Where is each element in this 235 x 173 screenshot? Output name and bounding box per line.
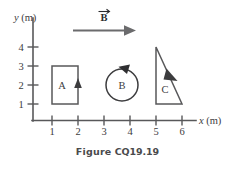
loop-c-group: C (156, 47, 182, 104)
y-tick-label-group: 4 3 2 1 (18, 42, 24, 110)
x-tick-label-4: 4 (127, 126, 133, 137)
loop-a-label: A (58, 80, 66, 91)
x-axis-label-var: x (198, 115, 204, 126)
field-label-B: B (100, 12, 107, 23)
loop-b-label: B (118, 80, 125, 91)
physics-figure: 4 3 2 1 1 2 3 4 5 6 x(m) y(m) (0, 0, 235, 173)
y-axis-label: y(m) (13, 12, 37, 24)
caption-prefix: Figure (76, 146, 112, 157)
y-tick-label-3: 3 (18, 61, 23, 72)
field-arrow-head (124, 25, 136, 36)
caption-id: CQ19.19 (115, 146, 159, 157)
y-axis-label-var: y (13, 12, 19, 23)
x-tick-label-2: 2 (75, 126, 80, 137)
loop-b-group: B (106, 65, 138, 102)
x-tick-label-1: 1 (49, 126, 54, 137)
axis-group (32, 18, 196, 121)
x-tick-label-6: 6 (179, 126, 184, 137)
x-axis-label: x(m) (198, 115, 222, 127)
y-tick-label-2: 2 (18, 80, 23, 91)
figure-caption: Figure CQ19.19 (0, 146, 235, 157)
loop-a-group: A (52, 66, 82, 104)
x-tick-label-group: 1 2 3 4 5 6 (49, 126, 184, 137)
loop-c-label: C (161, 84, 168, 95)
x-axis-label-unit: (m) (206, 115, 222, 127)
x-tick-label-3: 3 (101, 126, 106, 137)
magnetic-field-vector: B (73, 9, 136, 36)
y-tick-label-1: 1 (18, 99, 23, 110)
loop-c-current-arrow-head (164, 69, 178, 82)
y-axis-label-unit: (m) (21, 12, 37, 24)
loop-a-current-arrow-head (74, 78, 82, 88)
y-tick-label-4: 4 (18, 42, 24, 53)
x-tick-label-5: 5 (153, 126, 158, 137)
